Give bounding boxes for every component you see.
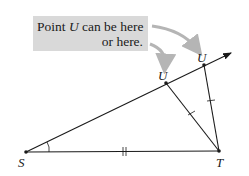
segment-ST — [26, 151, 219, 152]
callout-line-1: Point U can be here — [37, 19, 143, 34]
label-T: T — [216, 156, 223, 169]
callout-box: Point U can be here or here. — [33, 16, 148, 51]
callout-variable: U — [69, 19, 79, 34]
label-U-near: U — [158, 69, 167, 82]
angle-S-arc — [47, 142, 49, 152]
callout-arrow-far — [152, 26, 196, 48]
ray-SU — [26, 53, 231, 152]
label-S: S — [18, 156, 25, 169]
segment-TU-near — [166, 83, 219, 151]
point-T — [217, 149, 221, 153]
tick-TU-far — [207, 100, 215, 101]
callout-arrow-near — [150, 44, 165, 64]
point-S — [24, 150, 28, 154]
label-U-far: U — [197, 51, 206, 64]
callout-text: can be here — [79, 19, 144, 34]
callout-text: Point — [37, 19, 69, 34]
segment-TU-far — [204, 65, 219, 151]
callout-line-2: or here. — [37, 34, 143, 49]
